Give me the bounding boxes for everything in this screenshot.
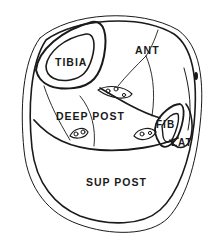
ant-divider-left: [118, 56, 146, 86]
label-deep-post: DEEP POST: [56, 110, 125, 122]
peroneal-bundle: [134, 129, 156, 140]
label-ant: ANT: [135, 44, 160, 56]
leg-cross-section-diagram: TIBIA ANT DEEP POST FIB LAT SUP POST: [0, 0, 214, 244]
superficial-peroneal-nerve: [194, 72, 198, 80]
label-lat: LAT: [171, 137, 193, 148]
label-fib: FIB: [156, 119, 175, 130]
label-sup-post: SUP POST: [86, 176, 147, 188]
ant-divider-right: [146, 56, 154, 116]
label-tibia: TIBIA: [55, 56, 87, 68]
lat-divider: [184, 68, 190, 130]
posterior-tibial-bundle: [70, 129, 88, 139]
